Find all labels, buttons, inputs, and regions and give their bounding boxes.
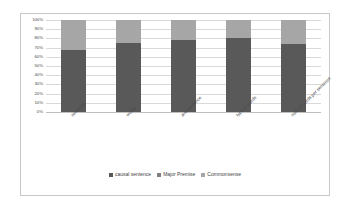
chart-frame: 0%10%20%30%40%50%60%70%80%90%100% senten… (20, 13, 330, 196)
bar-stack (281, 20, 306, 112)
bar-stack (61, 20, 86, 112)
bar-segment-commonsense[interactable] (171, 20, 196, 40)
bar-stack (226, 20, 251, 112)
bar-segment-commonsense[interactable] (281, 20, 306, 44)
y-axis-tick-label: 20% (35, 91, 44, 95)
legend-label: causal sentence (115, 172, 151, 177)
plot-area: 0%10%20%30%40%50%60%70%80%90%100% (46, 20, 321, 112)
y-axis-tick-label: 70% (35, 45, 44, 49)
legend-item[interactable]: Commonsense (201, 172, 241, 177)
y-axis-tick-label: 100% (32, 18, 43, 22)
bar-group[interactable] (61, 20, 86, 112)
bar-segment-commonsense[interactable] (226, 20, 251, 38)
bar-segment-commonsense[interactable] (61, 20, 86, 50)
legend-swatch-icon (109, 173, 113, 177)
legend-label: Commonsense (207, 172, 241, 177)
legend-swatch-icon (201, 173, 205, 177)
y-axis-tick-label: 50% (35, 64, 44, 68)
legend-item[interactable]: Major Premise (157, 172, 195, 177)
legend-label: Major Premise (163, 172, 195, 177)
legend-swatch-icon (157, 173, 161, 177)
y-axis-tick-label: 10% (35, 101, 44, 105)
y-axis: 0%10%20%30%40%50%60%70%80%90%100% (21, 20, 45, 112)
y-axis-tick-label: 60% (35, 55, 44, 59)
bar-stack (116, 20, 141, 112)
bar-group[interactable] (171, 20, 196, 112)
y-axis-tick-label: 40% (35, 73, 44, 77)
bar-group[interactable] (281, 20, 306, 112)
bar-series-container (46, 20, 321, 112)
bar-group[interactable] (226, 20, 251, 112)
y-axis-tick-label: 0% (37, 110, 43, 114)
y-axis-tick-label: 30% (35, 82, 44, 86)
legend-item[interactable]: causal sentence (109, 172, 151, 177)
y-axis-tick-label: 90% (35, 27, 44, 31)
x-axis: sentencewordsave sentencetype of wordsnu… (46, 114, 321, 174)
chart-legend: causal sentenceMajor PremiseCommonsense (21, 172, 329, 177)
bar-segment-commonsense[interactable] (116, 20, 141, 43)
y-axis-tick-label: 80% (35, 36, 44, 40)
bar-group[interactable] (116, 20, 141, 112)
bar-segment-causal-sentence[interactable] (116, 43, 141, 112)
bar-stack (171, 20, 196, 112)
